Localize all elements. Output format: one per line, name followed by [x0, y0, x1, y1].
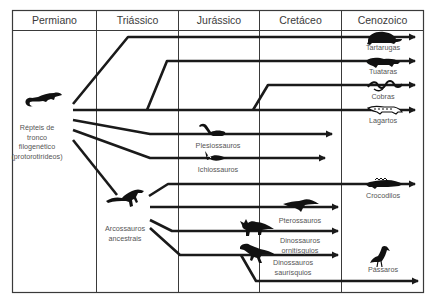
branch-plesiossauros [73, 120, 332, 134]
label-crocodilos: Crocodilos [358, 191, 408, 201]
archosaurs-label-line2: ancestrais [98, 234, 152, 244]
pterosaur-silhouette-icon [283, 199, 319, 212]
period-header-cenozoico: Cenozoico [342, 12, 423, 28]
period-header-jurassico: Jurássico [179, 12, 259, 28]
period-header-cretaceo: Cretáceo [260, 12, 341, 28]
label-lagartos: Lagartos [358, 116, 408, 126]
label-tuataras: Tuataras [358, 67, 408, 77]
label-ornitisquios: Dinossauros ornitísquios [275, 236, 325, 255]
label-saurisquios-line2: saurísquios [268, 268, 318, 278]
label-tartarugas: Tartarugas [358, 43, 408, 53]
lizard-silhouette-icon [368, 106, 402, 114]
root-label-line4: (protorotirídeos) [6, 152, 69, 162]
archosaurs-label-line1: Arcossauros [98, 224, 152, 234]
label-ornitisquios-line2: ornitísquios [275, 246, 325, 256]
archosaur-silhouette-icon [106, 190, 144, 208]
period-header-triassico: Triássico [97, 12, 178, 28]
label-saurisquios: Dinossauros saurísquios [268, 258, 318, 277]
root-label-line2: tronco [6, 133, 69, 143]
triceratops-silhouette-icon [240, 219, 274, 236]
label-cobras: Cobras [358, 92, 408, 102]
period-header-permiano: Permiano [13, 12, 96, 28]
bird-silhouette-icon [370, 246, 390, 267]
label-pterossauros: Pterossauros [275, 216, 325, 226]
label-saurisquios-line1: Dinossauros [268, 258, 318, 268]
label-passaros: Pássaros [358, 265, 408, 275]
lizard-silhouette-icon [25, 93, 62, 107]
crocodile-silhouette-icon [365, 178, 403, 189]
root-label-line1: Répteis de [6, 123, 69, 133]
branch-arcossauros [73, 140, 117, 195]
label-ornitisquios-line1: Dinossauros [275, 236, 325, 246]
root-label: Répteis de tronco filogenético (protorot… [6, 123, 69, 161]
label-plesiossauros: Plesiossauros [193, 141, 243, 151]
label-ichiossauros: Ichiossauros [193, 165, 243, 175]
root-label-line3: filogenético [6, 142, 69, 152]
archosaurs-label: Arcossauros ancestrais [98, 224, 152, 243]
